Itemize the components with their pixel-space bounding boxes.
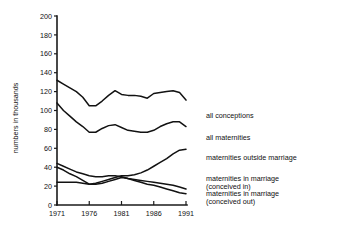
series-line-2 [57,149,186,184]
x-tick-label: 1986 [146,209,162,218]
series-line-1 [57,103,186,132]
y-axis-tick-group: 020406080100120140160180200 [40,12,57,210]
legend-group: all conceptionsall maternitiesmaternitie… [206,111,297,206]
y-axis-title: numbers in thousands [11,82,20,153]
y-tick-label: 60 [44,144,52,153]
y-tick-label: 40 [44,163,52,172]
x-tick-label: 1981 [114,209,130,218]
y-tick-label: 80 [44,125,52,134]
chart-figure: 020406080100120140160180200 197119761981… [0,0,340,245]
x-axis-tick-group: 19711976198119861991 [49,201,194,218]
line-chart-canvas: 020406080100120140160180200 197119761981… [0,0,340,245]
x-tick-label: 1971 [49,209,65,218]
legend-label-2: maternities outside marriage [206,153,297,162]
x-tick-label: 1991 [178,209,194,218]
x-tick-label: 1976 [81,209,97,218]
y-tick-label: 140 [40,68,52,77]
y-tick-label: 20 [44,182,52,191]
series-line-0 [57,80,186,106]
y-tick-label: 160 [40,49,52,58]
y-tick-label: 120 [40,87,52,96]
y-tick-label: 100 [40,106,52,115]
legend-label-0: all conceptions [206,111,254,120]
legend-label-4-line2: (conceived out) [206,197,255,206]
legend-label-1: all maternities [206,133,251,142]
y-tick-label: 180 [40,31,52,40]
series-group [57,80,186,193]
y-tick-label: 200 [40,12,52,21]
